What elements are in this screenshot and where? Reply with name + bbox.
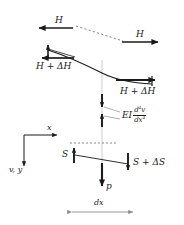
shear-face-connector bbox=[75, 155, 128, 164]
shear-right-label: S + ΔS bbox=[133, 158, 165, 167]
dx-label: dx bbox=[94, 199, 104, 207]
h-top-right-label: H bbox=[136, 30, 144, 39]
h-delta-right-label: H + ΔH bbox=[120, 87, 155, 96]
shear-left-label: S bbox=[62, 150, 68, 159]
h-delta-left-label: H + ΔH bbox=[36, 62, 71, 71]
stiffness-label: EI bbox=[122, 110, 132, 120]
den-exponent: 4 bbox=[143, 115, 146, 120]
den-base: dx bbox=[134, 117, 142, 125]
num-variable: v bbox=[141, 106, 145, 114]
derivative-numerator: d4v bbox=[133, 106, 146, 114]
elastic-leader-lower bbox=[104, 116, 120, 119]
h-top-left-label: H bbox=[55, 16, 63, 25]
elastic-leader-upper bbox=[104, 107, 120, 112]
figure-canvas: H H H + ΔH H + ΔH S S + ΔS p x v, y dx E… bbox=[0, 0, 184, 225]
left-face-slant bbox=[48, 49, 75, 57]
undeformed-axis-dashed bbox=[76, 26, 123, 41]
derivative-denominator: dx4 bbox=[133, 116, 146, 124]
elastic-force-expression: EI d4v dx4 bbox=[122, 106, 146, 125]
derivative-fraction: d4v dx4 bbox=[133, 106, 146, 125]
diagram-vectors bbox=[0, 0, 184, 225]
axis-vy-label: v, y bbox=[9, 166, 22, 174]
load-label: p bbox=[106, 182, 112, 191]
axis-x-label: x bbox=[47, 124, 52, 132]
